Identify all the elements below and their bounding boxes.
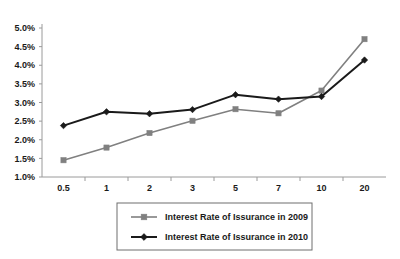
x-axis-tick-label: 10	[316, 183, 326, 193]
y-axis-tick-label: 4.0%	[14, 60, 35, 70]
x-axis-tick-label: 2	[147, 183, 152, 193]
x-axis-tick-label: 1	[104, 183, 109, 193]
y-axis-tick-label: 3.0%	[14, 98, 35, 108]
data-point-marker	[147, 130, 152, 135]
x-axis-tick-label: 0.5	[57, 183, 70, 193]
chart-legend: Interest Rate of Issurance in 2009Intere…	[117, 203, 312, 250]
line-chart: 1.0%1.5%2.0%2.5%3.0%3.5%4.0%4.5%5.0% 0.5…	[0, 0, 400, 259]
data-point-marker	[233, 107, 238, 112]
data-point-marker	[362, 37, 367, 42]
legend-label: Interest Rate of Issurance in 2010	[165, 232, 308, 242]
data-point-marker	[61, 158, 66, 163]
y-axis-tick-label: 3.5%	[14, 79, 35, 89]
legend-label: Interest Rate of Issurance in 2009	[165, 212, 308, 222]
y-axis-tick-label: 1.0%	[14, 172, 35, 182]
data-point-marker	[190, 118, 195, 123]
y-axis-tick-label: 4.5%	[14, 42, 35, 52]
y-axis-tick-label: 2.0%	[14, 135, 35, 145]
x-axis-tick-label: 7	[276, 183, 281, 193]
legend-border	[117, 203, 312, 250]
y-axis-tick-label: 1.5%	[14, 154, 35, 164]
data-point-marker	[276, 111, 281, 116]
x-axis-tick-label: 5	[233, 183, 238, 193]
chart-canvas: 1.0%1.5%2.0%2.5%3.0%3.5%4.0%4.5%5.0% 0.5…	[0, 0, 400, 259]
x-axis-tick-label: 20	[359, 183, 369, 193]
y-axis-tick-label: 5.0%	[14, 23, 35, 33]
legend-marker-icon	[141, 214, 147, 220]
data-point-marker	[319, 88, 324, 93]
x-axis-tick-label: 3	[190, 183, 195, 193]
data-point-marker	[104, 145, 109, 150]
y-axis-tick-label: 2.5%	[14, 116, 35, 126]
